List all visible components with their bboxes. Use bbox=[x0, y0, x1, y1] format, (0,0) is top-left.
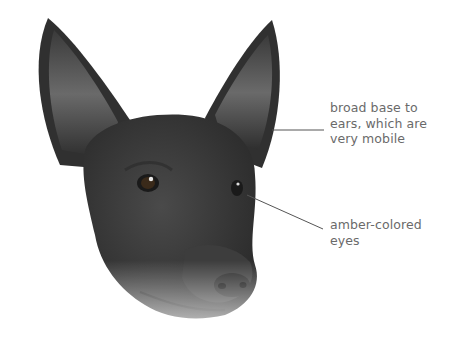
ears-callout-label: broad base to ears, which are very mobil… bbox=[330, 100, 427, 147]
eyes-callout-label: amber-colored eyes bbox=[330, 217, 422, 248]
dog-head-illustration bbox=[0, 0, 454, 354]
head bbox=[60, 115, 280, 354]
ears-callout-line-3: very mobile bbox=[330, 131, 427, 147]
ears-callout-line-2: ears, which are bbox=[330, 116, 427, 132]
ears-callout-line-1: broad base to bbox=[330, 100, 427, 116]
eyes-callout-line-2: eyes bbox=[330, 233, 422, 249]
eyes-callout-line-1: amber-colored bbox=[330, 217, 422, 233]
